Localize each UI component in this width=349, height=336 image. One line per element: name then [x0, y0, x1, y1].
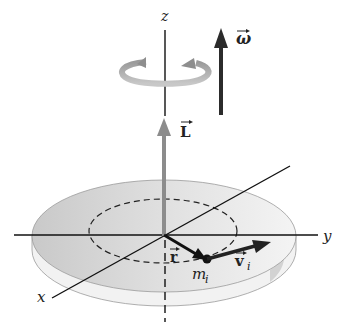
z-axis-label: z: [160, 8, 169, 24]
arrowhead-icon: [157, 118, 171, 136]
svg-text:i: i: [205, 273, 209, 286]
omega-label: ω: [236, 29, 251, 48]
L-label: L: [180, 120, 193, 141]
svg-text:v: v: [234, 252, 245, 270]
svg-text:L: L: [180, 123, 191, 141]
rotation-diagram: z y x ω L r m i v i: [0, 0, 349, 336]
angular-velocity-vector: [214, 28, 228, 115]
x-axis-label: x: [37, 288, 46, 306]
y-axis-label: y: [322, 227, 332, 245]
mass-label: m i: [192, 265, 209, 286]
arrowhead-icon: [214, 28, 228, 48]
svg-text:ω: ω: [236, 29, 251, 48]
svg-text:r: r: [170, 249, 178, 265]
svg-text:i: i: [247, 260, 251, 273]
diagram-canvas: z y x ω L r m i v i: [0, 0, 349, 336]
